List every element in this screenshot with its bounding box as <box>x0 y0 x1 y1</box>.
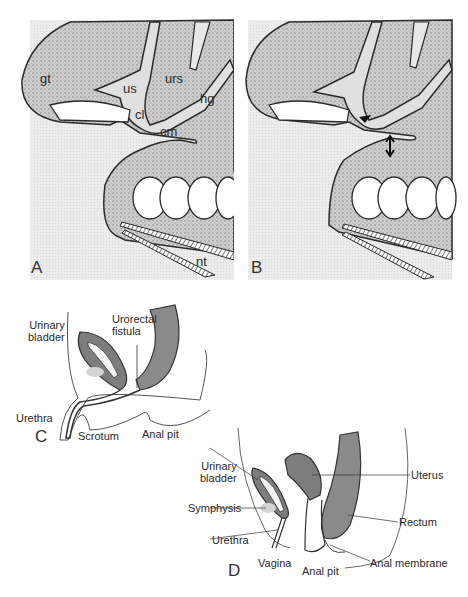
symphysis <box>86 367 104 377</box>
label-anal-pit-c: Anal pit <box>142 429 179 441</box>
label-anal-membrane: Anal membrane <box>370 558 448 570</box>
panel-b-illustration <box>234 0 468 290</box>
panel-label-d: D <box>228 562 240 579</box>
rectum <box>322 432 361 539</box>
vertebrae <box>352 177 456 219</box>
panel-a: gt us urs hg cl cm nt A <box>0 0 234 290</box>
leader-anal-membrane <box>330 545 370 561</box>
label-us: us <box>123 82 137 96</box>
label-uterus: Uterus <box>411 470 443 482</box>
label-cl: cl <box>135 108 144 122</box>
panel-b: B <box>234 0 468 290</box>
label-scrotum: Scrotum <box>78 431 119 443</box>
label-cm: cm <box>160 125 177 139</box>
panel-label-b: B <box>251 259 262 276</box>
label-urs: urs <box>165 72 183 86</box>
anal-membrane <box>325 540 345 553</box>
panel-d: Urinarybladder Symphysis Urethra Vagina … <box>180 420 468 597</box>
label-urethra-c: Urethra <box>16 413 53 425</box>
label-anal-pit-d: Anal pit <box>302 566 339 578</box>
label-rectum: Rectum <box>399 517 437 529</box>
label-urinary-bladder-d2: Urinarybladder <box>200 461 237 484</box>
leader-rectum <box>348 515 398 522</box>
panel-label-c: C <box>35 428 47 445</box>
uterus <box>285 453 321 500</box>
label-vagina: Vagina <box>258 558 291 570</box>
label-nt: nt <box>196 255 207 269</box>
vagina <box>305 498 325 552</box>
label-urorectal-fistula: Urorectalfistula <box>112 314 157 337</box>
label-symphysis: Symphysis <box>188 503 241 515</box>
label-hg: hg <box>200 92 214 106</box>
vertebrae <box>133 177 234 219</box>
panel-label-a: A <box>31 259 42 276</box>
label-gt: gt <box>40 72 51 86</box>
panel-a-illustration <box>0 0 234 290</box>
label-urethra-d: Urethra <box>212 535 249 547</box>
label-urinary-bladder-c: Urinarybladder <box>28 320 65 343</box>
